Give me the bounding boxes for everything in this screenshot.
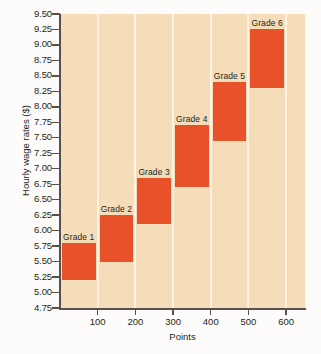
y-tick-label-5.00: 5.00 xyxy=(8,286,52,297)
x-tick-label-500: 500 xyxy=(228,316,268,327)
y-tick-label-5.50: 5.50 xyxy=(8,255,52,266)
x-tick-600 xyxy=(285,308,286,315)
gridline-x-500 xyxy=(247,14,249,308)
x-tick-400 xyxy=(210,308,211,315)
x-tick-label-400: 400 xyxy=(191,316,231,327)
bar-grade-2 xyxy=(100,215,134,261)
y-axis-line xyxy=(59,14,61,309)
y-tick-9.25 xyxy=(52,29,60,30)
y-tick-5.50 xyxy=(52,261,60,262)
x-tick-300 xyxy=(172,308,173,315)
gridline-x-200 xyxy=(134,14,136,308)
y-tick-9.00 xyxy=(52,44,60,45)
y-tick-4.75 xyxy=(52,307,60,308)
y-tick-label-9.00: 9.00 xyxy=(8,38,52,49)
y-tick-6.75 xyxy=(52,184,60,185)
gridline-x-400 xyxy=(210,14,212,308)
y-axis-title: Hourly wage rates ($) xyxy=(20,71,31,231)
x-tick-label-100: 100 xyxy=(78,316,118,327)
x-tick-100 xyxy=(97,308,98,315)
y-tick-label-8.75: 8.75 xyxy=(8,54,52,65)
y-tick-5.25 xyxy=(52,276,60,277)
y-tick-6.25 xyxy=(52,214,60,215)
x-tick-500 xyxy=(248,308,249,315)
y-tick-9.50 xyxy=(52,13,60,14)
bar-grade-6 xyxy=(250,29,284,88)
bar-grade-5 xyxy=(213,82,247,141)
bar-label-grade-4: Grade 4 xyxy=(176,114,207,124)
y-tick-8.50 xyxy=(52,75,60,76)
y-tick-label-5.75: 5.75 xyxy=(8,240,52,251)
y-tick-8.75 xyxy=(52,60,60,61)
y-tick-8.25 xyxy=(52,91,60,92)
y-tick-label-9.50: 9.50 xyxy=(8,8,52,19)
y-tick-7.25 xyxy=(52,153,60,154)
y-tick-6.00 xyxy=(52,230,60,231)
x-tick-label-200: 200 xyxy=(115,316,155,327)
x-tick-label-600: 600 xyxy=(266,316,306,327)
y-tick-7.00 xyxy=(52,168,60,169)
wage-structure-chart: 9.509.259.008.758.508.258.007.757.507.25… xyxy=(0,0,321,354)
y-tick-8.00 xyxy=(52,106,60,107)
y-tick-label-4.75: 4.75 xyxy=(8,302,52,313)
bar-grade-3 xyxy=(137,178,171,224)
y-tick-7.50 xyxy=(52,137,60,138)
x-axis-title: Points xyxy=(60,331,305,342)
bar-label-grade-5: Grade 5 xyxy=(214,71,245,81)
x-tick-label-300: 300 xyxy=(153,316,193,327)
bar-grade-4 xyxy=(175,125,209,187)
bar-label-grade-1: Grade 1 xyxy=(63,232,94,242)
bar-grade-1 xyxy=(62,243,96,280)
y-tick-7.75 xyxy=(52,122,60,123)
bar-label-grade-2: Grade 2 xyxy=(101,204,132,214)
bar-label-grade-6: Grade 6 xyxy=(251,18,282,28)
y-tick-5.00 xyxy=(52,292,60,293)
gridline-x-300 xyxy=(172,14,174,308)
x-tick-200 xyxy=(135,308,136,315)
y-tick-label-9.25: 9.25 xyxy=(8,23,52,34)
bar-label-grade-3: Grade 3 xyxy=(138,167,169,177)
gridline-x-100 xyxy=(97,14,99,308)
plot-area: Grade 1Grade 2Grade 3Grade 4Grade 5Grade… xyxy=(60,14,305,308)
y-tick-label-5.25: 5.25 xyxy=(8,271,52,282)
y-tick-5.75 xyxy=(52,245,60,246)
gridline-x-600 xyxy=(285,14,287,308)
y-tick-6.50 xyxy=(52,199,60,200)
